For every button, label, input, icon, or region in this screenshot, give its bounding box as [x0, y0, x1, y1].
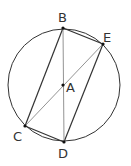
point-A: [61, 83, 64, 86]
point-C: [23, 124, 26, 127]
point-D: [62, 140, 65, 143]
label-E: E: [103, 30, 111, 45]
label-A: A: [66, 80, 75, 95]
geometry-diagram: B E A C D: [0, 0, 131, 166]
label-B: B: [58, 10, 67, 25]
segment-BE: [63, 28, 103, 44]
label-D: D: [58, 146, 68, 161]
segment-BC: [25, 28, 63, 126]
label-C: C: [13, 129, 22, 144]
segment-CD: [25, 126, 64, 142]
point-B: [61, 26, 64, 29]
